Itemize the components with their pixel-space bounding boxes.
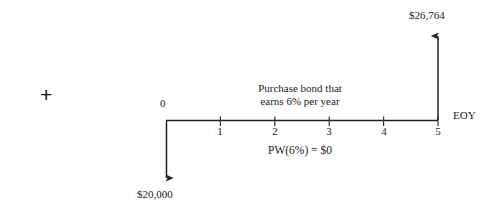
origin-label-zero: 0 xyxy=(160,98,166,109)
tick-label-3: 3 xyxy=(326,126,332,137)
diagram-graphics xyxy=(0,0,499,214)
positive-direction-plus-sign: + xyxy=(40,84,52,105)
tick-label-5: 5 xyxy=(435,126,441,137)
bond-annotation: Purchase bond that earns 6% per year xyxy=(258,82,342,108)
tick-label-2: 2 xyxy=(272,126,278,137)
tick-label-1: 1 xyxy=(217,126,223,137)
present-worth-note: PW(6%) = $0 xyxy=(268,145,332,157)
axis-caption-eoy: EOY xyxy=(453,110,476,121)
bond-annotation-line-2: earns 6% per year xyxy=(258,95,342,108)
inflow-value-label: $26,764 xyxy=(409,10,445,21)
outflow-value-label: $20,000 xyxy=(137,189,173,200)
bond-annotation-line-1: Purchase bond that xyxy=(258,82,342,95)
tick-label-4: 4 xyxy=(381,126,387,137)
cash-flow-diagram: + 0 EOY 1 2 3 4 5 Purchase bond that ear… xyxy=(0,0,499,214)
